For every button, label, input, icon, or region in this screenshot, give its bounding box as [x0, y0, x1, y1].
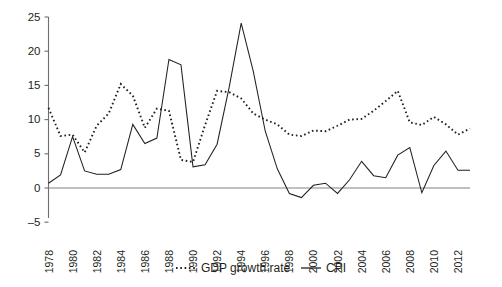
x-tick-label: 1984 [115, 250, 127, 274]
x-tick-label: 2000 [307, 250, 319, 274]
x-tick-label: 1988 [163, 250, 175, 274]
x-tick-label: 2004 [356, 250, 368, 274]
legend-label-cpi: CPI [326, 261, 346, 275]
y-axis-tick-labels: –50510152025 [28, 11, 41, 228]
line-chart: –50510152025 197819801982198419861988199… [0, 0, 502, 287]
chart-container: –50510152025 197819801982198419861988199… [0, 0, 502, 287]
x-tick-label: 1982 [91, 250, 103, 274]
y-tick-label: –5 [28, 216, 41, 228]
x-tick-label: 2012 [452, 250, 464, 274]
y-tick-label: 5 [34, 147, 40, 159]
x-tick-label: 1990 [187, 250, 199, 274]
y-tick-label: 10 [28, 113, 41, 125]
x-tick-label: 2008 [404, 250, 416, 274]
series-line-cpi [49, 23, 471, 197]
series-line-gdp-growth-rate [49, 84, 471, 162]
y-tick-label: 15 [28, 79, 41, 91]
x-tick-label: 1978 [43, 250, 55, 274]
x-tick-label: 2006 [380, 250, 392, 274]
legend-label-gdp-growth-rate: GDP growth rate [201, 261, 290, 275]
x-tick-label: 2010 [428, 250, 440, 274]
legend: GDP growth rate CPI [176, 261, 346, 275]
y-axis-ticks [45, 17, 49, 222]
y-tick-label: 20 [28, 45, 41, 57]
x-tick-label: 1980 [67, 250, 79, 274]
x-tick-label: 1986 [139, 250, 151, 274]
y-axis-group: –50510152025 [28, 11, 49, 228]
y-tick-label: 25 [28, 11, 41, 23]
y-tick-label: 0 [34, 182, 40, 194]
